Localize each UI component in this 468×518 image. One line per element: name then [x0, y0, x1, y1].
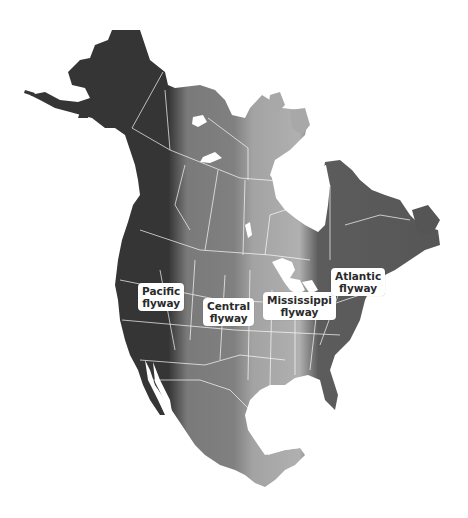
north-america-flyway-map [0, 0, 468, 518]
label-line: flyway [267, 306, 332, 318]
atlantic-flyway-label: Atlantic flyway [331, 268, 385, 296]
label-line: Pacific [142, 285, 180, 297]
pacific-flyway-label: Pacific flyway [138, 283, 184, 311]
label-line: Mississippi [267, 294, 332, 306]
label-line: flyway [335, 282, 381, 294]
aleutian-islands [24, 90, 35, 96]
central-flyway-label: Central flyway [203, 298, 254, 326]
continent-landmass [30, 30, 440, 487]
mississippi-flyway-label: Mississippi flyway [263, 292, 336, 320]
gulf-of-mexico [250, 380, 322, 455]
label-line: Atlantic [335, 270, 381, 282]
label-line: flyway [142, 297, 180, 309]
label-line: Central [207, 300, 250, 312]
label-line: flyway [207, 312, 250, 324]
